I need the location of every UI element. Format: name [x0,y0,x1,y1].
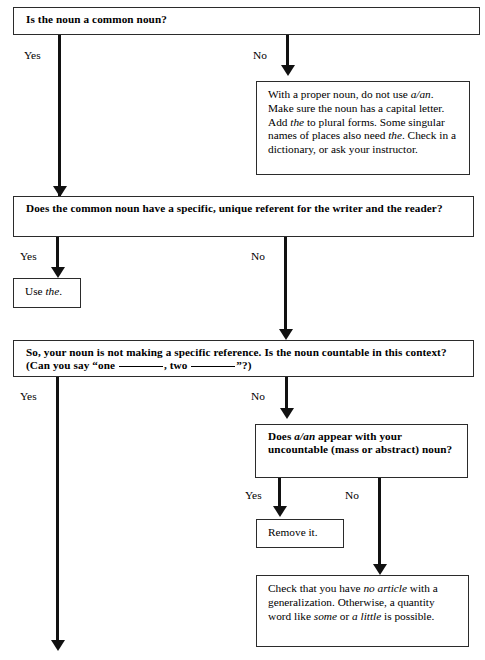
edge-q4-no-line [378,478,381,565]
edge-q3-yes-label: Yes [20,390,37,402]
edge-q3-yes-arrowhead [51,640,65,651]
node-q4-text: Does a/an appear with your uncountable (… [256,425,467,460]
edge-q3-no-label: No [251,390,265,402]
edge-q4-yes-arrowhead [273,506,287,517]
node-q1-text: Is the noun a common noun? [14,8,479,30]
edge-q1-yes-line [58,35,61,196]
node-q3-countable: So, your noun is not making a specific r… [13,340,474,377]
edge-q1-no-arrowhead [281,65,295,76]
node-n2-no-article-note: Check that you have no article with a ge… [256,575,469,647]
node-q1-is-common-noun: Is the noun a common noun? [13,7,480,35]
edge-q1-no-line [286,35,289,66]
edge-q2-no-line [284,237,287,330]
edge-q3-no-arrowhead [280,408,294,419]
edge-q2-yes-arrowhead [51,267,65,278]
flowchart-canvas: Is the noun a common noun? Yes No With a… [0,0,485,660]
edge-q4-no-arrowhead [373,564,387,575]
node-a2-text: Remove it. [257,520,343,544]
node-a2-remove-it: Remove it. [256,519,344,548]
edge-q4-no-label: No [345,489,359,501]
edge-q3-no-line [285,377,288,409]
node-n2-text: Check that you have no article with a ge… [257,576,468,628]
node-a1-use-the: Use the. [13,278,81,308]
edge-q3-yes-line [56,377,59,643]
edge-q1-no-label: No [253,49,267,61]
node-n1-text: With a proper noun, do not use a/an. Mak… [257,82,469,162]
edge-q4-yes-label: Yes [245,489,262,501]
edge-q2-yes-line [56,237,59,268]
edge-q2-yes-label: Yes [20,250,37,262]
node-q3-text: So, your noun is not making a specific r… [14,341,473,376]
node-n1-proper-noun-note: With a proper noun, do not use a/an. Mak… [256,81,470,175]
edge-q2-no-label: No [251,250,265,262]
node-q2-text: Does the common noun have a specific, un… [14,197,473,219]
edge-q4-yes-line [278,478,281,507]
node-a1-text: Use the. [14,279,80,303]
edge-q1-yes-label: Yes [24,49,41,61]
edge-q2-no-arrowhead [279,329,293,340]
node-q4-a-an-appears: Does a/an appear with your uncountable (… [255,424,468,478]
node-q2-unique-referent: Does the common noun have a specific, un… [13,196,474,237]
